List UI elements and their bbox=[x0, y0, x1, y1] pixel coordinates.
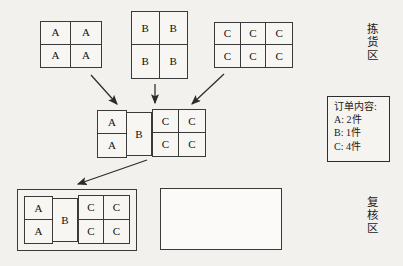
order-line-b: B: 1件 bbox=[334, 126, 384, 139]
stock-cell-c: C bbox=[241, 23, 267, 45]
arrow-picked-to-verification bbox=[78, 160, 147, 184]
stock-cell-a: A bbox=[41, 22, 71, 45]
arrow-c-to-picked bbox=[192, 74, 224, 104]
zone-label-picking-char: 区 bbox=[364, 49, 380, 62]
verification-cell-c: C bbox=[79, 220, 104, 244]
order-title: 订单内容: bbox=[334, 100, 384, 113]
zone-label-picking-char: 拣 bbox=[364, 23, 380, 36]
stock-cell-b: B bbox=[160, 45, 188, 78]
verification-cell-c: C bbox=[104, 220, 129, 244]
picked-cell-a: A bbox=[98, 134, 126, 157]
stock-cell-b: B bbox=[132, 45, 160, 78]
stock-grid-c: C C C C C C bbox=[214, 22, 293, 68]
zone-label-verification-char: 复 bbox=[364, 196, 380, 209]
zone-label-verification-char: 区 bbox=[364, 222, 380, 235]
picked-group-c-grid: C C C C bbox=[152, 109, 206, 157]
picked-group-a-column: A A bbox=[97, 110, 127, 158]
stock-cell-b: B bbox=[160, 12, 188, 45]
order-contents-box: 订单内容: A: 2件 B: 1件 C: 4件 bbox=[327, 96, 390, 162]
stock-cell-c: C bbox=[215, 23, 241, 45]
verification-cell-a: A bbox=[25, 220, 52, 243]
picked-box-b: B bbox=[126, 112, 152, 156]
stock-cell-c: C bbox=[241, 45, 267, 67]
arrow-a-to-picked bbox=[91, 75, 117, 104]
stock-grid-b: B B B B bbox=[131, 11, 188, 79]
picked-cell-c: C bbox=[153, 133, 179, 156]
picked-cell-b-label: B bbox=[135, 128, 142, 140]
stock-grid-a: A A A A bbox=[40, 21, 102, 68]
zone-label-picking: 拣 货 区 bbox=[364, 23, 380, 63]
verification-cell-c: C bbox=[79, 196, 104, 220]
verification-cell-b-label: B bbox=[61, 214, 68, 226]
stock-cell-c: C bbox=[266, 23, 292, 45]
stock-cell-b: B bbox=[132, 12, 160, 45]
verification-cell-a: A bbox=[25, 197, 52, 220]
diagram-canvas: A A A A B B B B C C C C C C A A B C C C … bbox=[0, 0, 403, 266]
order-line-c: C: 4件 bbox=[334, 140, 384, 153]
zone-label-verification: 复 核 区 bbox=[364, 196, 380, 236]
zone-label-picking-char: 货 bbox=[364, 36, 380, 49]
stock-cell-a: A bbox=[71, 22, 101, 45]
verification-cell-c: C bbox=[104, 196, 129, 220]
stock-cell-a: A bbox=[41, 45, 71, 68]
verification-a-column: A A bbox=[24, 196, 53, 244]
picked-cell-c: C bbox=[179, 133, 205, 156]
verification-container-empty bbox=[160, 188, 282, 250]
stock-cell-a: A bbox=[71, 45, 101, 68]
verification-c-grid: C C C C bbox=[78, 195, 130, 244]
zone-label-verification-char: 核 bbox=[364, 209, 380, 222]
picked-cell-c: C bbox=[153, 110, 179, 133]
verification-box-b: B bbox=[52, 198, 78, 242]
picked-cell-a: A bbox=[98, 111, 126, 134]
order-line-a: A: 2件 bbox=[334, 113, 384, 126]
picked-cell-c: C bbox=[179, 110, 205, 133]
stock-cell-c: C bbox=[215, 45, 241, 67]
stock-cell-c: C bbox=[266, 45, 292, 67]
